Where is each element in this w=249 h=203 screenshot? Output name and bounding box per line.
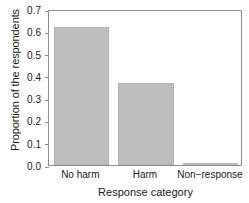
y-tick-mark — [45, 100, 49, 101]
y-tick-label: 0.1 — [9, 138, 41, 152]
bar — [118, 83, 173, 165]
y-tick-mark — [45, 122, 49, 123]
y-tick-mark — [45, 55, 49, 56]
y-tick-mark — [45, 11, 49, 12]
bar-chart-figure: Proportion of the respondents 0.00.10.20… — [0, 0, 249, 203]
y-tick-mark — [45, 33, 49, 34]
x-tick-label: Harm — [113, 169, 178, 180]
y-tick-mark — [45, 77, 49, 78]
y-tick-label: 0.6 — [9, 26, 41, 40]
bar — [54, 27, 109, 165]
y-tick-label: 0.3 — [9, 93, 41, 107]
y-tick-mark — [45, 144, 49, 145]
y-tick-label: 0.4 — [9, 71, 41, 85]
x-axis-title: Response category — [48, 186, 243, 198]
plot-area: 0.00.10.20.30.40.50.60.7 — [48, 10, 242, 166]
x-tick-label: No harm — [48, 169, 113, 180]
bar — [183, 163, 238, 165]
y-tick-label: 0.2 — [9, 115, 41, 129]
y-tick-mark — [45, 167, 49, 168]
y-tick-label: 0.7 — [9, 4, 41, 18]
y-tick-label: 0.5 — [9, 49, 41, 63]
x-tick-label: Non−response — [177, 169, 242, 180]
y-tick-label: 0.0 — [9, 160, 41, 174]
